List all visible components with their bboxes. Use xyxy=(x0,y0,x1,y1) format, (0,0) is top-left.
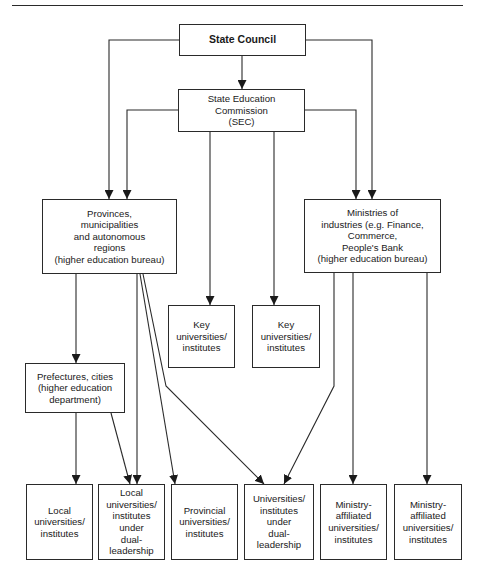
node-local-universities-dual-leadership: Local universities/ institutes under dua… xyxy=(98,484,165,560)
node-ministry-affiliated-2: Ministry- affiliated universities/ insti… xyxy=(394,484,462,560)
node-key-universities-2: Key universities/ institutes xyxy=(252,305,320,368)
node-ministries: Ministries of industries (e.g. Finance, … xyxy=(304,199,441,273)
node-state-council: State Council xyxy=(179,24,306,56)
node-provinces: Provinces, municipalities and autonomous… xyxy=(42,199,177,274)
node-prefectures-cities: Prefectures, cities (higher education de… xyxy=(25,363,125,413)
node-state-education-commission: State Education Commission (SEC) xyxy=(178,89,305,132)
node-ministry-affiliated-1: Ministry- affiliated universities/ insti… xyxy=(320,484,387,560)
node-key-universities-1: Key universities/ institutes xyxy=(168,305,235,368)
node-local-universities: Local universities/ institutes xyxy=(26,484,93,560)
org-chart-diagram: State Council State Education Commission… xyxy=(0,0,481,580)
node-provincial-universities: Provincial universities/ institutes xyxy=(171,484,238,560)
node-universities-dual-leadership: Universities/ institutes under dual- lea… xyxy=(244,484,314,560)
